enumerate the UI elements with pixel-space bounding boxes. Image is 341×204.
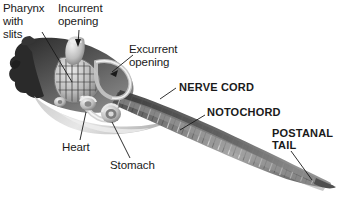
label-pharynx-with-slits: Pharynx with slits xyxy=(3,2,45,41)
anatomy-figure: Pharynx with slits Incurrent opening Exc… xyxy=(0,0,341,204)
leader-nerve-cord xyxy=(160,88,176,99)
label-notochord: NOTOCHORD xyxy=(207,106,281,118)
label-nerve-cord: NERVE CORD xyxy=(179,81,254,93)
endostyle-loop xyxy=(54,97,66,107)
label-postanal-tail: POSTANAL TAIL xyxy=(272,127,333,152)
label-heart: Heart xyxy=(62,141,90,154)
label-stomach: Stomach xyxy=(110,159,155,172)
organism-illustration xyxy=(0,0,341,204)
label-excurrent-opening: Excurrent opening xyxy=(129,43,177,69)
label-incurrent-opening: Incurrent opening xyxy=(58,2,102,28)
heart-organ xyxy=(80,97,96,111)
